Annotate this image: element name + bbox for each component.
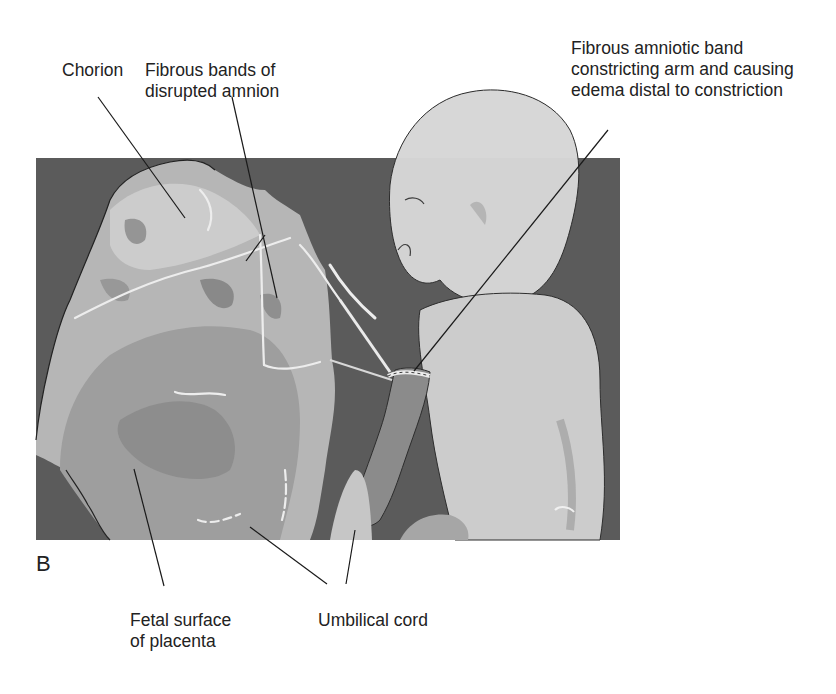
label-line: Fibrous amniotic band bbox=[571, 38, 794, 59]
label-chorion: Chorion bbox=[62, 60, 123, 81]
illustration bbox=[0, 0, 836, 694]
label-line: Umbilical cord bbox=[318, 610, 428, 631]
label-line: constricting arm and causing bbox=[571, 59, 794, 80]
label-line: of placenta bbox=[130, 631, 231, 652]
label-line: edema distal to constriction bbox=[571, 80, 794, 101]
label-line: disrupted amnion bbox=[145, 81, 279, 102]
label-line: Fetal surface bbox=[130, 610, 231, 631]
label-umbilical-cord: Umbilical cord bbox=[318, 610, 428, 631]
label-fibrous-bands: Fibrous bands of disrupted amnion bbox=[145, 60, 279, 102]
label-fetal-surface: Fetal surface of placenta bbox=[130, 610, 231, 652]
label-amniotic-band: Fibrous amniotic band constricting arm a… bbox=[571, 38, 794, 101]
label-line: Fibrous bands of bbox=[145, 60, 279, 81]
panel-letter: B bbox=[36, 551, 51, 577]
amniotic-band-figure: Chorion Fibrous bands of disrupted amnio… bbox=[0, 0, 836, 694]
label-line: Chorion bbox=[62, 60, 123, 81]
